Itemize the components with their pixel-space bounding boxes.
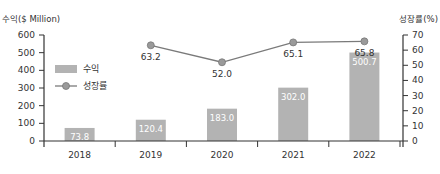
left-tick-label: 100: [18, 118, 35, 128]
left-tick-label: 200: [18, 101, 35, 111]
left-tick-label: 0: [29, 136, 35, 146]
right-tick-label: 40: [412, 75, 424, 85]
right-tick-label: 0: [412, 136, 418, 146]
left-tick-label: 600: [18, 30, 35, 40]
right-axis-title: 성장률(%): [399, 14, 438, 24]
line-value-label: 65.1: [283, 49, 303, 59]
line-point: [147, 42, 154, 49]
right-tick-label: 50: [412, 60, 424, 70]
x-tick-label: 2022: [353, 150, 376, 160]
left-axis: 0100200300400500600: [18, 30, 44, 147]
x-tick-label: 2018: [68, 150, 91, 160]
line-value-label: 52.0: [212, 69, 232, 79]
right-tick-label: 10: [412, 121, 424, 131]
x-tick-label: 2020: [211, 150, 234, 160]
x-axis: 20182019202020212022: [44, 141, 403, 160]
right-tick-label: 30: [412, 91, 424, 101]
right-tick-label: 60: [412, 45, 424, 55]
right-tick-label: 20: [412, 106, 424, 116]
line-marker-icon: [55, 81, 77, 91]
bar-value-label: 183.0: [210, 113, 234, 123]
left-tick-label: 300: [18, 83, 35, 93]
left-tick-label: 400: [18, 65, 35, 75]
right-tick-label: 70: [412, 30, 424, 40]
x-tick-label: 2019: [139, 150, 162, 160]
right-axis: 010203040506070: [403, 30, 424, 147]
growth-line: 63.252.065.165.8: [141, 38, 375, 79]
bar-value-label: 120.4: [139, 124, 163, 134]
bar-value-label: 302.0: [281, 92, 305, 102]
line-point: [361, 38, 368, 45]
left-axis-title: 수익($ Million): [2, 14, 60, 24]
left-tick-label: 500: [18, 48, 35, 58]
line-value-label: 63.2: [141, 52, 161, 62]
x-tick-label: 2021: [282, 150, 305, 160]
legend-label-growth: 성장률: [83, 79, 107, 92]
bar-swatch-icon: [55, 65, 77, 73]
line-point: [219, 59, 226, 66]
legend-label-revenue: 수익: [83, 62, 99, 75]
legend-item-revenue: 수익: [55, 62, 99, 75]
line-point: [290, 39, 297, 46]
line-value-label: 65.8: [354, 48, 374, 58]
legend-item-growth: 성장률: [55, 79, 107, 92]
